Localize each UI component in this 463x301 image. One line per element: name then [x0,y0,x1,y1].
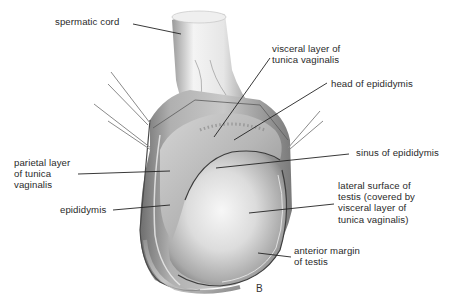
label-lateral-surface: lateral surface of testis (covered by vi… [338,180,415,225]
label-head-of-epididymis: head of epididymis [331,78,413,89]
label-sinus-of-epididymis: sinus of epididymis [356,147,439,158]
panel-letter: B [256,283,263,294]
label-epididymis: epididymis [60,204,106,215]
label-anterior-margin: anterior margin of testis [294,245,360,267]
label-parietal-layer: parietal layer of tunica vaginalis [14,157,70,191]
label-visceral-layer: visceral layer of tunica vaginalis [272,43,340,65]
label-spermatic-cord: spermatic cord [55,16,119,27]
